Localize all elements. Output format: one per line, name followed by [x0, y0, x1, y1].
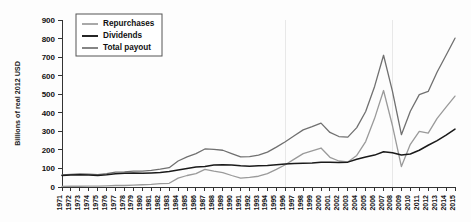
y-axis-title: Billions of real 2012 USD	[13, 61, 22, 146]
legend-label-total-payout: Total payout	[103, 43, 151, 52]
x-tick-label: 2005	[360, 195, 367, 211]
y-tick-label: 900	[42, 16, 56, 25]
x-tick-label: 1985	[181, 195, 188, 211]
x-tick-label: 1984	[172, 195, 179, 211]
x-tick-label: 1976	[101, 195, 108, 211]
x-tick-label: 1998	[297, 195, 304, 211]
x-tick-label: 2009	[395, 195, 402, 211]
x-tick-label: 1991	[235, 195, 242, 211]
x-tick-label: 1986	[190, 195, 197, 211]
x-tick-label: 2011	[413, 195, 420, 210]
x-tick-label: 2001	[324, 195, 331, 211]
y-tick-label: 600	[42, 72, 56, 81]
y-tick-label: 400	[42, 109, 56, 118]
x-tick-label: 1996	[279, 195, 286, 211]
x-tick-label: 1990	[226, 195, 233, 211]
x-tick-label: 2006	[369, 195, 376, 211]
x-tick-label: 1997	[288, 195, 295, 211]
y-tick-label: 100	[42, 164, 56, 173]
y-axis-label: Billions of real 2012 USD	[13, 61, 22, 146]
chart-series	[62, 38, 455, 186]
x-axis-ticks: 1971197219731974197519761977197819791980…	[56, 187, 456, 211]
series-line-dividends	[62, 129, 455, 175]
x-tick-label: 1980	[136, 195, 143, 211]
x-tick-label: 1987	[199, 195, 206, 211]
x-tick-label: 1999	[306, 195, 313, 211]
y-axis-ticks: 0100200300400500600700800900	[42, 16, 62, 192]
legend-label-dividends: Dividends	[103, 31, 143, 40]
x-tick-label: 2000	[315, 195, 322, 211]
y-tick-label: 0	[51, 183, 56, 192]
x-tick-label: 1988	[208, 195, 215, 211]
y-tick-label: 300	[42, 127, 56, 136]
y-tick-label: 700	[42, 53, 56, 62]
x-tick-label: 1975	[92, 195, 99, 211]
x-tick-label: 1994	[261, 195, 268, 211]
x-tick-label: 1972	[65, 195, 72, 211]
y-tick-label: 500	[42, 90, 56, 99]
x-tick-label: 2015	[449, 195, 456, 211]
y-tick-label: 800	[42, 35, 56, 44]
x-tick-label: 2003	[342, 195, 349, 211]
chart-legend: RepurchasesDividendsTotal payout	[76, 14, 162, 56]
y-tick-label: 200	[42, 146, 56, 155]
x-tick-label: 1992	[244, 195, 251, 211]
x-tick-label: 2012	[422, 195, 429, 211]
x-tick-label: 1974	[83, 195, 90, 211]
x-tick-label: 1971	[56, 195, 63, 211]
x-tick-label: 1979	[127, 195, 134, 211]
x-tick-label: 2007	[378, 195, 385, 211]
x-tick-label: 1973	[74, 195, 81, 211]
x-tick-label: 2010	[404, 195, 411, 211]
x-tick-label: 1993	[253, 195, 260, 211]
x-tick-label: 1981	[145, 195, 152, 211]
x-tick-label: 2014	[440, 195, 447, 211]
x-tick-label: 2008	[386, 195, 393, 211]
x-tick-label: 2013	[431, 195, 438, 211]
x-tick-label: 1978	[119, 195, 126, 211]
chart-figure: 0100200300400500600700800900 19711972197…	[0, 0, 471, 222]
x-tick-label: 2002	[333, 195, 340, 211]
line-chart: 0100200300400500600700800900 19711972197…	[0, 0, 471, 222]
legend-label-repurchases: Repurchases	[103, 19, 155, 28]
x-tick-label: 1982	[154, 195, 161, 211]
x-tick-label: 1989	[217, 195, 224, 211]
x-tick-label: 1995	[270, 195, 277, 211]
x-tick-label: 1983	[163, 195, 170, 211]
x-tick-label: 2004	[351, 195, 358, 211]
x-tick-label: 1977	[110, 195, 117, 211]
series-line-total-payout	[62, 38, 455, 175]
